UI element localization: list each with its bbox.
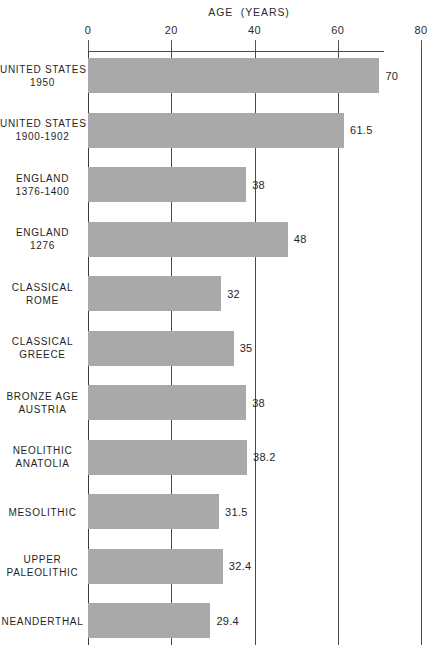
bar-row: ENGLAND 127648 — [0, 222, 434, 257]
bar-row: UNITED STATES 195070 — [0, 58, 434, 93]
bar-value-label: 70 — [385, 70, 398, 82]
bar-category-label: UNITED STATES 1900-1902 — [0, 117, 85, 143]
bar-category-label: ENGLAND 1376-1400 — [0, 172, 85, 198]
bar-category-label: UPPER PALEOLITHIC — [0, 553, 85, 579]
bar — [88, 113, 344, 148]
bar — [88, 494, 219, 529]
bar-category-label: UNITED STATES 1950 — [0, 63, 85, 89]
bar-value-label: 29.4 — [216, 615, 239, 627]
bar-category-label: NEANDERTHAL — [0, 614, 85, 627]
bar-value-label: 38 — [252, 397, 265, 409]
bar — [88, 167, 246, 202]
bar-category-label: NEOLITHIC ANATOLIA — [0, 444, 85, 470]
bar-rows: UNITED STATES 195070UNITED STATES 1900-1… — [0, 0, 434, 651]
bar-row: CLASSICAL GREECE35 — [0, 331, 434, 366]
bar-category-label: CLASSICAL ROME — [0, 281, 85, 307]
bar-value-label: 31.5 — [225, 506, 248, 518]
bar-chart: AGE (YEARS) 020406080 UNITED STATES 1950… — [0, 0, 434, 651]
bar-value-label: 32.4 — [229, 560, 252, 572]
bar — [88, 276, 221, 311]
bar-value-label: 38 — [252, 179, 265, 191]
bar — [88, 603, 210, 638]
bar-value-label: 48 — [294, 233, 307, 245]
bar-row: NEANDERTHAL29.4 — [0, 603, 434, 638]
bar — [88, 222, 288, 257]
bar-row: UNITED STATES 1900-190261.5 — [0, 113, 434, 148]
bar-category-label: MESOLITHIC — [0, 505, 85, 518]
bar-value-label: 38.2 — [253, 451, 276, 463]
bar — [88, 385, 246, 420]
bar-row: BRONZE AGE AUSTRIA38 — [0, 385, 434, 420]
bar-value-label: 61.5 — [350, 124, 373, 136]
bar-row: CLASSICAL ROME32 — [0, 276, 434, 311]
bar-category-label: CLASSICAL GREECE — [0, 335, 85, 361]
bar-row: UPPER PALEOLITHIC32.4 — [0, 549, 434, 584]
bar — [88, 440, 247, 475]
bar — [88, 58, 379, 93]
bar-value-label: 32 — [227, 288, 240, 300]
bar-row: MESOLITHIC31.5 — [0, 494, 434, 529]
bar-row: ENGLAND 1376-140038 — [0, 167, 434, 202]
bar — [88, 331, 234, 366]
bar-category-label: BRONZE AGE AUSTRIA — [0, 390, 85, 416]
bar — [88, 549, 223, 584]
bar-category-label: ENGLAND 1276 — [0, 226, 85, 252]
bar-row: NEOLITHIC ANATOLIA38.2 — [0, 440, 434, 475]
bar-value-label: 35 — [240, 342, 253, 354]
